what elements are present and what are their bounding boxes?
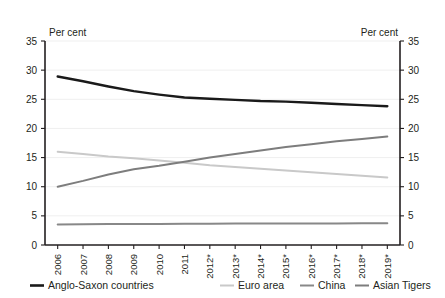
y-tick-label-right: 5 — [408, 210, 414, 221]
y-tick-label-left: 25 — [26, 94, 38, 105]
y-tick-label-right: 15 — [408, 152, 420, 163]
y-tick-label-left: 0 — [31, 240, 37, 251]
chart-container: Per centPer cent005510101515202025253030… — [0, 0, 445, 298]
x-tick-label: 2011 — [179, 254, 190, 274]
x-tick-label: 2006 — [52, 254, 63, 275]
y-tick-label-left: 35 — [26, 36, 38, 47]
x-tick-label: 2017* — [331, 254, 342, 279]
series-line-anglo-saxon-countries — [58, 77, 388, 107]
y-tick-label-left: 10 — [26, 181, 38, 192]
x-tick-label: 2016* — [306, 254, 317, 279]
series-line-china — [58, 223, 388, 224]
y-tick-label-left: 15 — [26, 152, 38, 163]
x-tick-label: 2012* — [204, 254, 215, 279]
legend-label-asian-tigers: Asian Tigers — [373, 279, 431, 291]
y-tick-label-right: 35 — [408, 36, 420, 47]
y-tick-label-left: 30 — [26, 65, 38, 76]
x-tick-label: 2013* — [230, 254, 241, 279]
y-tick-label-right: 30 — [408, 65, 420, 76]
series-line-asian-tigers — [58, 137, 388, 187]
legend-label-anglo-saxon-countries: Anglo-Saxon countries — [48, 279, 154, 291]
y-tick-label-right: 20 — [408, 123, 420, 134]
x-tick-label: 2010 — [154, 254, 165, 275]
line-chart: Per centPer cent005510101515202025253030… — [0, 0, 445, 298]
x-tick-label: 2007 — [78, 254, 89, 275]
x-tick-label: 2018* — [356, 254, 367, 279]
x-tick-label: 2015* — [280, 254, 291, 279]
x-tick-label: 2019* — [382, 254, 393, 279]
x-tick-label: 2008 — [103, 254, 114, 275]
y-tick-label-right: 0 — [408, 240, 414, 251]
x-tick-label: 2014* — [255, 254, 266, 279]
y-tick-label-left: 5 — [31, 210, 37, 221]
y-axis-unit-right: Per cent — [361, 27, 398, 38]
y-axis-unit-left: Per cent — [49, 27, 86, 38]
y-tick-label-right: 10 — [408, 181, 420, 192]
y-tick-label-right: 25 — [408, 94, 420, 105]
x-tick-label: 2009 — [128, 254, 139, 275]
y-tick-label-left: 20 — [26, 123, 38, 134]
legend-label-china: China — [318, 279, 346, 291]
legend-label-euro-area: Euro area — [238, 279, 284, 291]
